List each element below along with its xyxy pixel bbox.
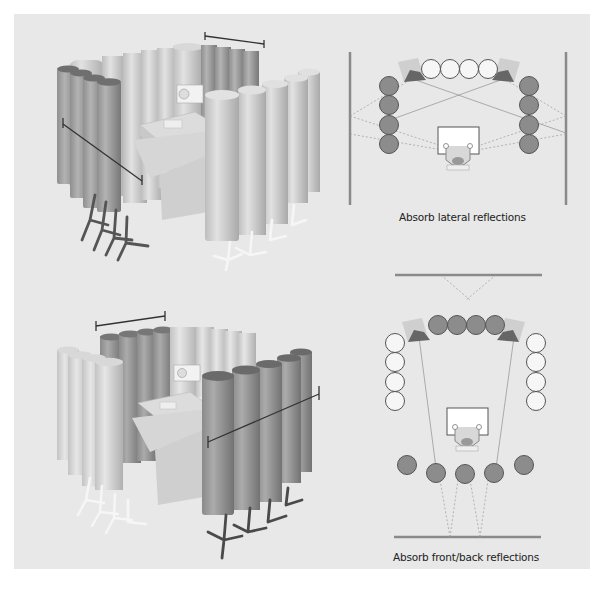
caption-front-back: Absorb front/back reflections bbox=[393, 551, 539, 563]
left-absorbers bbox=[57, 66, 121, 213]
right-absorbers bbox=[202, 349, 312, 516]
right-absorbers bbox=[205, 69, 320, 242]
caption-lateral: Absorb lateral reflections bbox=[399, 211, 526, 223]
render-lateral bbox=[20, 20, 340, 275]
render-front-back bbox=[20, 300, 340, 562]
dimension-line-top bbox=[96, 311, 165, 331]
left-absorbers bbox=[57, 347, 123, 491]
